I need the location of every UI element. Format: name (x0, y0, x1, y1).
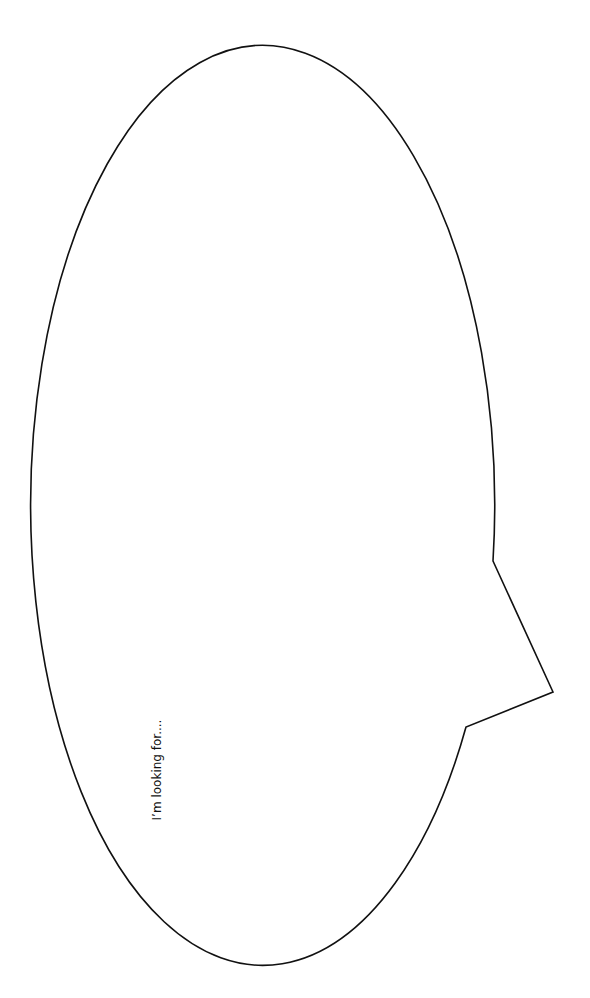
speech-bubble-outline (31, 45, 553, 965)
bubble-caption: I’m looking for.... (150, 720, 164, 821)
speech-bubble (0, 0, 590, 998)
